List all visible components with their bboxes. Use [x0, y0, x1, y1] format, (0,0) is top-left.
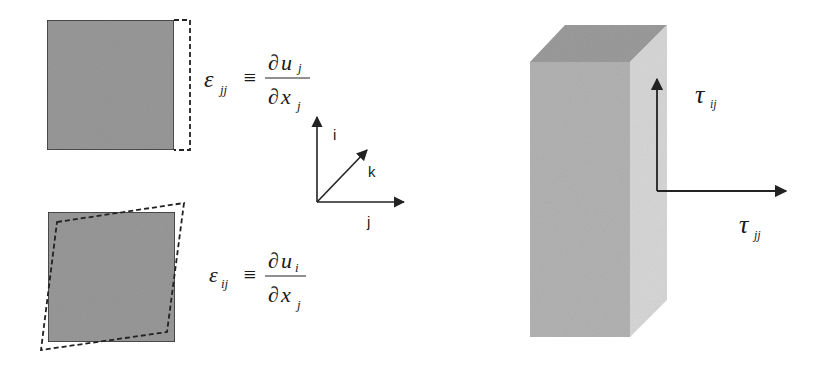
epsilon-symbol: ε [204, 66, 214, 92]
denominator-sub: j [295, 98, 301, 113]
tau-symbol: τ [695, 80, 706, 109]
strain-stress-diagram: ε jj ≡ ∂ u j ∂ x j i k j ε ij ≡ ∂ u i ∂ … [0, 0, 824, 367]
tau-subscript: jj [752, 228, 761, 242]
epsilon-symbol: ε [209, 262, 218, 287]
numerator-sub: j [296, 60, 302, 75]
stress-arrows [657, 79, 786, 191]
j-axis-label: j [366, 213, 370, 230]
tau-subscript: ij [710, 97, 717, 111]
denominator-partial: ∂ [268, 282, 279, 307]
shear-stress-label: τ ij [695, 80, 717, 111]
denominator-partial: ∂ [268, 84, 279, 109]
stress-block-3d [530, 25, 667, 337]
undeformed-square [47, 20, 174, 150]
numerator-sub: i [295, 260, 299, 275]
k-axis-arrow [317, 150, 367, 202]
k-axis-label: k [368, 163, 376, 180]
normal-strain-element [47, 20, 190, 150]
denominator-var: x [280, 84, 291, 109]
numerator-var: u [281, 50, 292, 75]
block-front-face [530, 62, 630, 337]
numerator-partial: ∂ [268, 248, 279, 273]
block-side-face [630, 25, 667, 337]
numerator-partial: ∂ [268, 50, 279, 75]
epsilon-subscript: ij [221, 276, 229, 291]
denominator-sub: j [295, 297, 301, 312]
equiv-sign: ≡ [242, 65, 257, 90]
epsilon-subscript: jj [218, 82, 228, 97]
tau-symbol: τ [739, 210, 750, 239]
normal-stress-label: τ jj [739, 210, 761, 242]
undeformed-square [48, 212, 175, 342]
normal-strain-formula: ε jj ≡ ∂ u j ∂ x j [204, 50, 310, 113]
shear-strain-element [41, 203, 184, 350]
i-axis-label: i [333, 126, 336, 143]
numerator-var: u [281, 248, 292, 273]
deformed-outline-dashed [174, 20, 190, 150]
denominator-var: x [280, 282, 291, 307]
shear-strain-formula: ε ij ≡ ∂ u i ∂ x j [209, 248, 306, 312]
equiv-sign: ≡ [242, 262, 257, 287]
axis-triad [317, 117, 404, 202]
